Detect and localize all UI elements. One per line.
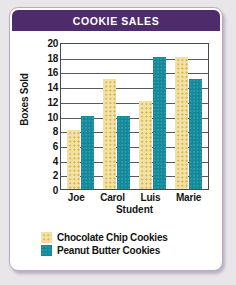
plot-area	[60, 43, 209, 190]
y-tick-label: 10	[30, 111, 58, 122]
x-tick-label: Luis	[141, 192, 161, 203]
x-tick-label: Carol	[100, 192, 125, 203]
bar-group	[67, 44, 94, 189]
chart-legend: Chocolate Chip CookiesPeanut Butter Cook…	[10, 232, 223, 256]
y-axis-ticks: 20181614121086420	[30, 43, 58, 190]
legend-item: Chocolate Chip Cookies	[41, 232, 193, 243]
y-axis-label: Boxes Sold	[19, 60, 30, 140]
y-tick-label: 14	[30, 82, 58, 93]
bar-marie-chocolate-chip	[175, 57, 188, 189]
bar-luis-chocolate-chip	[139, 101, 152, 189]
bar-group	[103, 44, 130, 189]
x-axis-label: Student	[60, 204, 209, 215]
bar-group	[175, 44, 202, 189]
chart-card: COOKIE SALES Boxes Sold 2018161412108642…	[9, 7, 223, 271]
legend-label: Chocolate Chip Cookies	[57, 232, 168, 243]
y-tick-label: 8	[30, 126, 58, 137]
y-tick-label: 0	[30, 185, 58, 196]
bar-joe-chocolate-chip	[67, 130, 80, 189]
bar-carol-chocolate-chip	[103, 79, 116, 189]
chart-title-bar: COOKIE SALES	[12, 10, 220, 31]
y-tick-label: 12	[30, 96, 58, 107]
legend-swatch-peanut	[41, 245, 52, 256]
legend-label: Peanut Butter Cookies	[57, 245, 160, 256]
bar-carol-peanut-butter	[117, 116, 130, 190]
y-tick-label: 4	[30, 155, 58, 166]
bar-groups	[61, 44, 208, 189]
y-tick-label: 20	[30, 38, 58, 49]
legend-item: Peanut Butter Cookies	[41, 245, 193, 256]
x-axis-ticks: JoeCarolLuisMarie	[60, 192, 209, 203]
y-tick-label: 2	[30, 170, 58, 181]
x-tick-label: Marie	[176, 192, 201, 203]
bar-group	[139, 44, 166, 189]
bar-luis-peanut-butter	[153, 57, 166, 189]
y-tick-label: 16	[30, 67, 58, 78]
legend-swatch-choc	[41, 232, 52, 243]
bar-joe-peanut-butter	[81, 116, 94, 190]
bar-marie-peanut-butter	[189, 79, 202, 189]
chart-title: COOKIE SALES	[73, 15, 160, 27]
x-tick-label: Joe	[68, 192, 85, 203]
y-tick-label: 6	[30, 140, 58, 151]
plot-wrapper: Boxes Sold 20181614121086420 JoeCarolLui…	[10, 32, 223, 218]
y-tick-label: 18	[30, 52, 58, 63]
